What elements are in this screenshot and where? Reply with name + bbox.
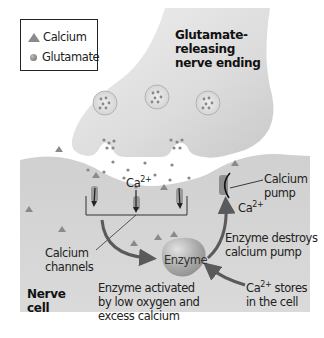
enzyme-label: Enzyme bbox=[164, 253, 207, 267]
legend: Calcium Glutamate bbox=[20, 19, 98, 71]
legend-item-calcium: Calcium bbox=[28, 30, 86, 44]
pump-ca-label: Ca2+ bbox=[238, 201, 263, 215]
calcium-channels-label: Calcium channels bbox=[45, 246, 93, 274]
calcium-pump-label: Calcium pump bbox=[264, 172, 307, 200]
legend-item-glutamate: Glutamate bbox=[28, 50, 99, 64]
enzyme-activated-label: Enzyme activated by low oxygen and exces… bbox=[98, 281, 200, 323]
circle-icon bbox=[30, 54, 37, 61]
ca-ion-label: Ca2+ bbox=[126, 176, 151, 190]
triangle-icon bbox=[28, 33, 40, 42]
nerve-ending-label: Glutamate- releasing nerve ending bbox=[175, 28, 261, 70]
enzyme-destroys-label: Enzyme destroys calcium pump bbox=[225, 231, 318, 259]
nerve-cell-label: Nerve cell bbox=[27, 287, 66, 315]
ca-stores-label: Ca2+ stores in the cell bbox=[246, 281, 307, 309]
